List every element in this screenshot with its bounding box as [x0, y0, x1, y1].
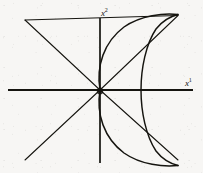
x1-axis-label: x1 [185, 79, 192, 88]
coordinate-figure-svg [0, 0, 203, 173]
x2-axis-label-superscript: 2 [105, 7, 108, 13]
cusp-curve-outer-upper [99, 14, 178, 90]
figure-canvas: x2 x1 [0, 0, 203, 173]
cusp-curve-inner-upper [141, 15, 178, 91]
cusp-curve-outer-lower [99, 90, 178, 166]
diagonal-segment-lower-right [100, 90, 178, 160]
diagonal-segment-upper-left [25, 20, 100, 90]
x2-axis-label: x2 [101, 9, 108, 18]
cusp-curve-inner-lower [141, 90, 178, 166]
x1-axis-label-superscript: 1 [189, 77, 192, 83]
diagonal-segment-lower-left [25, 90, 100, 160]
diagonal-segment-upper-right [100, 16, 178, 91]
origin-ink-blot [97, 87, 103, 94]
